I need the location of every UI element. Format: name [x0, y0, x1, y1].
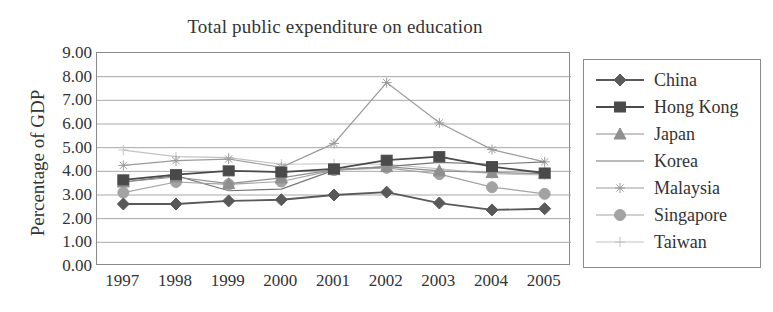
data-point-star — [487, 145, 497, 155]
plot-canvas — [97, 53, 571, 266]
y-tick-label: 7.00 — [36, 91, 92, 108]
data-point-star — [329, 138, 339, 148]
series-line — [123, 83, 544, 168]
data-point-circle — [118, 187, 129, 198]
data-point-square — [615, 102, 626, 112]
y-axis-tick-labels: 9.008.007.006.005.004.003.002.001.000.00 — [30, 52, 92, 265]
chart-figure: Total public expenditure on education Pe… — [0, 0, 773, 312]
data-point-square — [118, 175, 129, 185]
data-point-diamond — [381, 186, 393, 198]
legend-label: Taiwan — [646, 233, 707, 251]
data-point-star — [118, 160, 128, 170]
data-point-square — [381, 155, 392, 165]
data-point-diamond — [328, 189, 340, 201]
series-malaysia — [118, 78, 549, 173]
legend-item-hong-kong[interactable]: Hong Kong — [584, 93, 760, 120]
x-tick-label: 2005 — [514, 272, 574, 289]
legend-label: Korea — [646, 152, 698, 170]
legend-swatch-triangle-icon — [594, 125, 646, 143]
legend-item-malaysia[interactable]: Malaysia — [584, 174, 760, 201]
data-point-star — [615, 183, 625, 193]
legend-item-china[interactable]: China — [584, 66, 760, 93]
legend-swatch-square-icon — [594, 98, 646, 116]
legend-swatch-star-icon — [594, 179, 646, 197]
data-point-star — [171, 156, 181, 166]
x-tick-label: 2004 — [461, 272, 521, 289]
data-point-plus — [118, 145, 128, 155]
series-china — [117, 186, 550, 216]
y-tick-label: 6.00 — [36, 115, 92, 132]
data-point-square — [223, 166, 234, 176]
legend-item-singapore[interactable]: Singapore — [584, 201, 760, 228]
legend-item-korea[interactable]: Korea — [584, 147, 760, 174]
data-point-diamond — [117, 198, 129, 210]
legend-swatch-plus-icon — [594, 233, 646, 251]
data-point-square — [276, 167, 287, 177]
data-point-diamond — [433, 197, 445, 209]
data-point-square — [539, 168, 550, 178]
x-tick-label: 2003 — [408, 272, 468, 289]
x-tick-label: 2002 — [356, 272, 416, 289]
x-tick-label: 2001 — [303, 272, 363, 289]
legend-label: Japan — [646, 125, 695, 143]
data-point-diamond — [486, 204, 498, 216]
x-axis-tick-labels: 199719981999200020012002200320042005 — [96, 272, 570, 300]
legend-label: Malaysia — [646, 179, 720, 197]
chart-legend: ChinaHong KongJapanKoreaMalaysiaSingapor… — [583, 59, 761, 268]
plot-area — [96, 52, 570, 265]
data-point-star — [434, 118, 444, 128]
data-point-plus — [615, 237, 625, 247]
y-tick-label: 1.00 — [36, 233, 92, 250]
legend-label: Hong Kong — [646, 98, 739, 116]
y-tick-label: 2.00 — [36, 210, 92, 227]
y-tick-label: 3.00 — [36, 186, 92, 203]
data-point-star — [224, 154, 234, 164]
legend-swatch-diamond-icon — [594, 71, 646, 89]
data-point-diamond — [170, 198, 182, 210]
data-point-diamond — [614, 74, 626, 86]
legend-item-taiwan[interactable]: Taiwan — [584, 228, 760, 255]
x-tick-label: 1999 — [198, 272, 258, 289]
data-point-square — [329, 164, 340, 174]
data-point-circle — [487, 182, 498, 193]
chart-title: Total public expenditure on education — [90, 16, 580, 38]
legend-swatch-none-icon — [594, 152, 646, 170]
legend-label: Singapore — [646, 206, 727, 224]
data-point-diamond — [539, 203, 551, 215]
data-point-square — [434, 152, 445, 162]
legend-label: China — [646, 71, 697, 89]
legend-swatch-circle-icon — [594, 206, 646, 224]
data-point-diamond — [223, 195, 235, 207]
x-tick-label: 1997 — [92, 272, 152, 289]
legend-item-japan[interactable]: Japan — [584, 120, 760, 147]
data-point-diamond — [275, 194, 287, 206]
x-tick-label: 2000 — [250, 272, 310, 289]
data-point-circle — [615, 209, 626, 220]
y-tick-label: 4.00 — [36, 162, 92, 179]
data-point-star — [382, 78, 392, 88]
y-tick-label: 0.00 — [36, 257, 92, 274]
data-point-circle — [539, 188, 550, 199]
data-point-square — [487, 162, 498, 172]
y-tick-label: 5.00 — [36, 139, 92, 156]
x-tick-label: 1998 — [145, 272, 205, 289]
y-tick-label: 9.00 — [36, 44, 92, 61]
data-point-square — [171, 170, 182, 180]
y-tick-label: 8.00 — [36, 68, 92, 85]
